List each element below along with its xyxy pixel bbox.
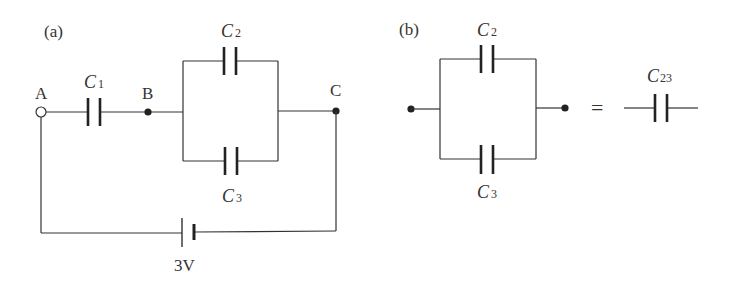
capacitor-c2 — [224, 47, 236, 75]
capacitor-c2-b — [481, 45, 493, 73]
c23-label: C23 — [647, 66, 672, 86]
capacitor-c23 — [655, 94, 667, 122]
equals-sign: = — [591, 95, 603, 120]
node-b-dot — [144, 108, 151, 115]
node-b-label: B — [142, 84, 153, 103]
figure-a: (a) A C1 B C2 C3 — [35, 21, 341, 275]
figure-b: (b) C2 C3 = C23 — [399, 20, 698, 202]
c2-label: C2 — [221, 21, 241, 41]
c1-label: C1 — [84, 72, 104, 92]
battery — [182, 218, 194, 247]
circuit-diagram: (a) A C1 B C2 C3 — [0, 0, 730, 283]
capacitor-c3-b — [481, 145, 493, 174]
c3-label: C3 — [222, 186, 242, 206]
figure-b-label: (b) — [399, 20, 419, 39]
node-a-terminal — [36, 107, 46, 117]
capacitor-c1 — [88, 98, 100, 126]
figure-a-label: (a) — [44, 22, 63, 41]
battery-voltage-label: 3V — [174, 256, 196, 275]
node-a-label: A — [35, 84, 48, 103]
capacitor-c3 — [225, 147, 237, 175]
c3-label-b: C3 — [477, 182, 497, 202]
right-terminal-dot — [561, 104, 568, 111]
node-c-label: C — [330, 81, 341, 100]
c2-label-b: C2 — [477, 20, 497, 40]
